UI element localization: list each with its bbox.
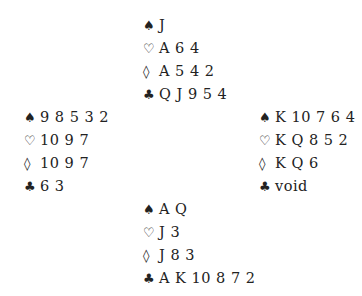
- club-icon: ♣: [143, 83, 157, 106]
- north-spades: ♠J: [143, 14, 227, 37]
- spade-icon: ♠: [259, 106, 273, 129]
- north-clubs: ♣Q J 9 5 4: [143, 83, 227, 106]
- club-icon: ♣: [259, 175, 273, 198]
- north-hand: ♠J ♡A 6 4 ◊A 5 4 2 ♣Q J 9 5 4: [143, 14, 227, 106]
- south-hand: ♠A Q ♡J 3 ◊J 8 3 ♣A K 10 8 7 2: [143, 198, 255, 290]
- west-spades: ♠9 8 5 3 2: [24, 106, 109, 129]
- north-hearts: ♡A 6 4: [143, 37, 227, 60]
- west-clubs: ♣6 3: [24, 175, 109, 198]
- diamond-icon: ◊: [259, 152, 273, 175]
- south-hearts: ♡J 3: [143, 221, 255, 244]
- heart-icon: ♡: [24, 129, 38, 152]
- spade-icon: ♠: [143, 198, 157, 221]
- club-icon: ♣: [24, 175, 38, 198]
- west-hearts: ♡10 9 7: [24, 129, 109, 152]
- east-spades: ♠K 10 7 6 4: [259, 106, 355, 129]
- east-hand: ♠K 10 7 6 4 ♡K Q 8 5 2 ◊K Q 6 ♣void: [259, 106, 355, 198]
- west-diamonds: ◊10 9 7: [24, 152, 109, 175]
- south-spades: ♠A Q: [143, 198, 255, 221]
- diamond-icon: ◊: [143, 60, 157, 83]
- west-hand: ♠9 8 5 3 2 ♡10 9 7 ◊10 9 7 ♣6 3: [24, 106, 109, 198]
- heart-icon: ♡: [259, 129, 273, 152]
- spade-icon: ♠: [143, 14, 157, 37]
- east-clubs: ♣void: [259, 175, 355, 198]
- diamond-icon: ◊: [143, 244, 157, 267]
- club-icon: ♣: [143, 267, 157, 290]
- east-diamonds: ◊K Q 6: [259, 152, 355, 175]
- north-diamonds: ◊A 5 4 2: [143, 60, 227, 83]
- diamond-icon: ◊: [24, 152, 38, 175]
- east-hearts: ♡K Q 8 5 2: [259, 129, 355, 152]
- spade-icon: ♠: [24, 106, 38, 129]
- south-diamonds: ◊J 8 3: [143, 244, 255, 267]
- south-clubs: ♣A K 10 8 7 2: [143, 267, 255, 290]
- heart-icon: ♡: [143, 37, 157, 60]
- heart-icon: ♡: [143, 221, 157, 244]
